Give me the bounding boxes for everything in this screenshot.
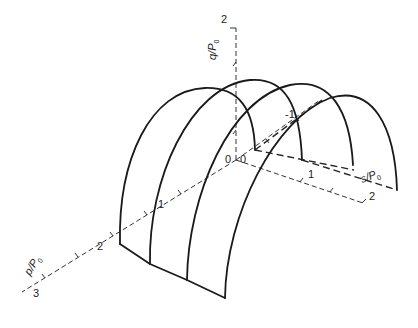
origin-label-q: 0 bbox=[225, 153, 231, 165]
arch-3 bbox=[187, 84, 353, 280]
p-axis: 1 2 3 p/P0 bbox=[21, 160, 236, 299]
s-tick-1: 1 bbox=[308, 168, 314, 180]
arch-2 bbox=[150, 80, 302, 264]
p-tick-2: 2 bbox=[97, 240, 103, 252]
arch-1 bbox=[120, 88, 255, 244]
p-tick-1: 1 bbox=[158, 198, 164, 210]
q-axis-label: q/P0 bbox=[206, 39, 220, 60]
q-axis: 2 q/P0 bbox=[206, 13, 236, 160]
q-tick-2: 2 bbox=[221, 13, 227, 25]
front-base-edge bbox=[120, 244, 225, 298]
right-base-edge bbox=[302, 160, 397, 190]
s-axis: 1 2 -1 s/P0 bbox=[236, 100, 382, 203]
p-tick-3: 3 bbox=[33, 287, 39, 299]
yield-surface-diagram: 2 q/P0 1 2 3 p/P0 1 2 -1 s/P0 0 bbox=[0, 0, 418, 328]
origin-label-s: 0 bbox=[240, 153, 246, 165]
s-tick-2: 2 bbox=[369, 190, 375, 202]
p-axis-label: p/P0 bbox=[21, 253, 44, 279]
